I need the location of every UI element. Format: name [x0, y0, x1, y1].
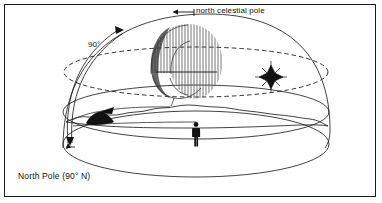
figure-root: north celestial pole 90° North Pole (90°…	[0, 0, 382, 203]
label-zenith-angle: 90°	[88, 41, 100, 49]
label-north-celestial-pole: north celestial pole	[196, 7, 265, 15]
label-location-north-pole: North Pole (90° N)	[18, 172, 90, 181]
